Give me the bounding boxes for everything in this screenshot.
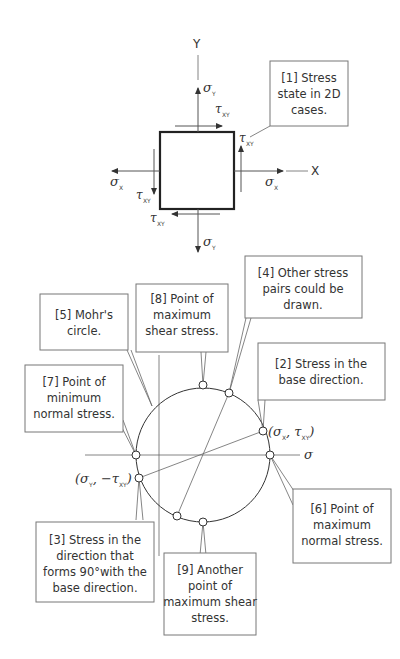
callout-5: [5] Mohr's circle. (40, 294, 128, 350)
callout-8-line-2: maximum (153, 308, 211, 322)
callout-2-line-2: base direction. (278, 373, 363, 387)
callout-4-line-3: drawn. (283, 298, 322, 312)
callout-7-line-3: normal stress. (33, 407, 115, 421)
callout-1-line-1: [1] Stress (281, 71, 336, 85)
callout-6-line-3: normal stress. (301, 534, 383, 548)
base-point-label: (σX, τXY) (268, 424, 314, 441)
sigma-x-right-sub: X (274, 184, 278, 191)
leader-5 (127, 350, 152, 406)
callout-9-line-4: stress. (191, 611, 229, 625)
sigma-y-top-sub: Y (211, 90, 216, 97)
callout-1: [1] Stress state in 2D cases. (250, 61, 348, 137)
mohr-circle-diagram: Y X σ Y σ Y σ X σ X τ XY τ XY τ XY τ XY (0, 0, 400, 659)
sigma-x-left-sub: X (119, 184, 123, 191)
callout-3: [3] Stress in the direction that forms 9… (36, 522, 154, 602)
callout-2: [2] Stress in the base direction. (258, 343, 385, 400)
callout-8-line-1: [8] Point of (150, 292, 214, 306)
callout-7-line-2: minimum (47, 391, 102, 405)
sigma-y-bottom-sub: Y (211, 244, 216, 251)
callout-9-line-1: [9] Another (177, 563, 243, 577)
callout-1-line-2: state in 2D (277, 87, 340, 101)
max-shear-point (199, 381, 207, 389)
callout-3-line-4: base direction. (52, 581, 137, 595)
base-diameter-line (139, 431, 263, 478)
tau-xy-right-sub: XY (246, 140, 254, 147)
leader-4 (229, 318, 251, 393)
callout-3-line-2: direction that (56, 549, 134, 563)
callout-5-line-1: [5] Mohr's (55, 308, 113, 322)
callout-1-line-3: cases. (291, 103, 327, 117)
tau-xy-top-sub: XY (222, 111, 230, 118)
callout-3-line-3: forms 90°with the (43, 565, 147, 579)
tau-xy-bottom-sub: XY (157, 220, 165, 227)
other-pair-point-b (173, 512, 181, 520)
callout-7: [7] Point of minimum normal stress. (25, 365, 123, 432)
callout-9-line-3: maximum shear (163, 595, 257, 609)
callout-6: [6] Point of maximum normal stress. (293, 489, 391, 563)
x-axis-label: X (311, 164, 319, 178)
stress-element-square (160, 132, 234, 209)
leader-3 (136, 478, 143, 520)
callout-6-line-1: [6] Point of (310, 502, 374, 516)
tau-xy-left-sub: XY (143, 197, 151, 204)
callout-3-line-1: [3] Stress in the (49, 533, 141, 547)
callout-7-line-1: [7] Point of (42, 375, 106, 389)
min-normal-point (132, 451, 140, 459)
callout-4-line-1: [4] Other stress (258, 266, 348, 280)
callout-9: [9] Another point of maximum shear stres… (163, 553, 257, 635)
other-pair-point-a (225, 389, 233, 397)
max-normal-point (266, 451, 274, 459)
callout-2-line-1: [2] Stress in the (275, 357, 367, 371)
base-direction-point (259, 427, 267, 435)
callout-5-line-2: circle. (67, 324, 101, 338)
callout-8: [8] Point of maximum shear stress. (136, 284, 228, 352)
perp-point-label: (σY, −τXY) (75, 471, 132, 488)
tau-xy-left-label: τ (136, 188, 143, 202)
callout-8-line-3: shear stress. (145, 324, 218, 338)
callout-4-line-2: pairs could be (262, 282, 343, 296)
callout-6-line-2: maximum (313, 518, 371, 532)
leader-8 (201, 352, 206, 385)
other-diameter-line (177, 393, 229, 516)
leader-9 (200, 522, 206, 555)
min-shear-point (199, 518, 207, 526)
callout-4: [4] Other stress pairs could be drawn. (245, 256, 362, 318)
tau-xy-top-label: τ (215, 102, 222, 116)
callout-9-line-2: point of (188, 579, 233, 593)
sigma-axis-label: σ (304, 447, 314, 462)
y-axis-label: Y (192, 37, 201, 51)
perpendicular-direction-point (135, 474, 143, 482)
tau-xy-right-label: τ (239, 131, 246, 145)
tau-xy-bottom-label: τ (150, 211, 157, 225)
